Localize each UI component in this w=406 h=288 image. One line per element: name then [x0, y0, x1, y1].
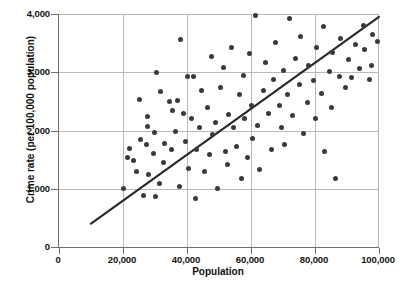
data-point	[144, 142, 149, 147]
data-point	[157, 181, 162, 186]
data-point	[305, 100, 310, 105]
data-point	[185, 74, 190, 79]
y-axis-tick	[51, 72, 58, 73]
data-point	[271, 77, 276, 82]
data-point	[361, 23, 366, 28]
data-point	[343, 85, 348, 90]
data-point	[257, 167, 262, 172]
data-point	[273, 40, 278, 45]
data-point	[191, 74, 196, 79]
data-point	[181, 111, 186, 116]
data-point	[175, 98, 180, 103]
data-point	[269, 147, 274, 152]
data-point	[209, 54, 214, 59]
data-point	[158, 89, 163, 94]
data-point	[261, 88, 266, 93]
data-point	[311, 78, 316, 83]
data-point	[167, 99, 172, 104]
data-point	[353, 42, 358, 47]
data-point	[183, 139, 188, 144]
x-axis-tick-label: 80,000	[284, 254, 344, 265]
data-point	[279, 125, 284, 130]
plot-area	[58, 14, 379, 248]
data-point	[205, 105, 210, 110]
data-point	[223, 149, 228, 154]
data-point	[239, 176, 244, 181]
data-point	[241, 73, 246, 78]
data-point	[152, 130, 157, 135]
x-axis-tick-label: 20,000	[92, 254, 152, 265]
data-point	[321, 24, 326, 29]
data-point	[357, 66, 362, 71]
data-point	[229, 45, 234, 50]
data-point	[199, 88, 204, 93]
data-point	[277, 103, 282, 108]
data-point	[193, 196, 198, 201]
data-point	[141, 193, 146, 198]
data-point	[137, 97, 142, 102]
x-axis-tick-label: 60,000	[220, 254, 280, 265]
data-point	[369, 63, 374, 68]
scatter-chart: 01,0002,0003,0004,000 020,00040,00060,00…	[0, 0, 406, 288]
data-point	[285, 92, 290, 97]
x-axis-tick-label: 0	[28, 254, 88, 265]
y-axis-tick-label: 4,000	[6, 8, 50, 19]
data-point	[329, 105, 334, 110]
data-point	[177, 184, 182, 189]
data-point	[337, 74, 342, 79]
data-point	[313, 116, 318, 121]
data-point	[333, 176, 338, 181]
data-point	[287, 16, 292, 21]
data-point	[281, 68, 286, 73]
data-point	[207, 152, 212, 157]
data-point	[349, 75, 354, 80]
data-point	[247, 51, 252, 56]
data-point	[173, 129, 178, 134]
y-axis-title: Crime rate (per 100,000 population)	[25, 30, 36, 210]
y-axis-tick	[51, 247, 58, 248]
data-point	[327, 69, 332, 74]
y-axis-tick-label: 0	[6, 241, 50, 252]
data-point	[221, 65, 226, 70]
data-point	[161, 160, 166, 165]
data-point	[231, 125, 236, 130]
y-axis-tick	[51, 189, 58, 190]
data-point	[319, 91, 324, 96]
data-point	[255, 123, 260, 128]
data-point	[245, 155, 250, 160]
data-point	[197, 125, 202, 130]
x-axis-tick-label: 40,000	[156, 254, 216, 265]
data-point	[145, 114, 150, 119]
x-axis-title: Population	[58, 266, 378, 277]
data-point	[367, 77, 372, 82]
data-point	[293, 56, 298, 61]
data-point	[253, 13, 258, 18]
data-point	[225, 162, 230, 167]
y-axis-tick	[51, 14, 58, 15]
x-axis-tick-label: 100,000	[348, 254, 406, 265]
data-point	[151, 151, 156, 156]
data-point	[297, 82, 302, 87]
data-point	[215, 186, 220, 191]
data-point	[169, 147, 174, 152]
data-point	[249, 103, 254, 108]
y-axis-tick	[51, 131, 58, 132]
trendline	[59, 14, 379, 247]
